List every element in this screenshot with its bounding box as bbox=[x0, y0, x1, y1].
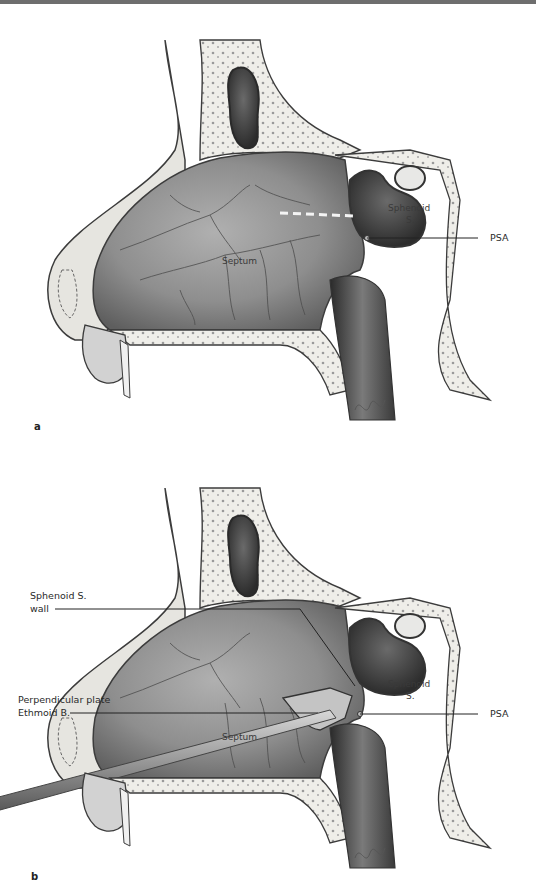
panel-letter-b: b bbox=[31, 871, 38, 882]
label-sphenoid-sinus: Sphenoid bbox=[388, 202, 430, 214]
panel-b: Septum Sphenoid S. PSA Sphenoid S. wall … bbox=[0, 448, 536, 896]
panel-a: Septum Sphenoid S. PSA a bbox=[0, 0, 536, 448]
label-sphenoid-sinus-abbrev: S. bbox=[406, 214, 415, 226]
label-psa-b: PSA bbox=[490, 708, 508, 720]
sagittal-nasal-illustration-a bbox=[0, 0, 536, 448]
label-septum-b: Septum bbox=[222, 731, 257, 743]
label-septum: Septum bbox=[222, 255, 257, 267]
label-ethmoid-bone: Ethmoid B. bbox=[18, 707, 70, 719]
label-sphenoid-wall-2: wall bbox=[30, 603, 49, 615]
label-sphenoid-sinus-abbrev-b: S. bbox=[406, 690, 415, 702]
sagittal-nasal-illustration-b bbox=[0, 448, 536, 896]
panel-letter-a: a bbox=[34, 421, 41, 432]
label-psa: PSA bbox=[490, 232, 508, 244]
label-sphenoid-wall: Sphenoid S. bbox=[30, 590, 87, 602]
label-perpendicular-plate: Perpendicular plate bbox=[18, 694, 110, 706]
label-sphenoid-sinus-b: Sphenoid bbox=[388, 678, 430, 690]
